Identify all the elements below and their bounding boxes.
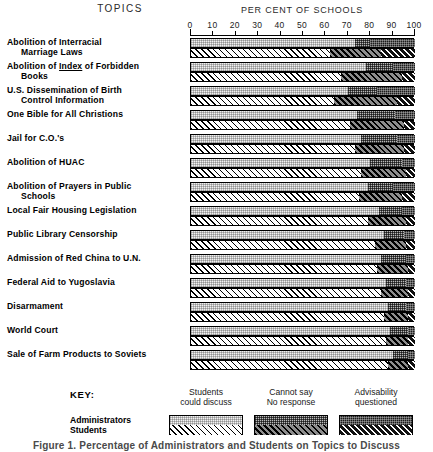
bar-administrators [190,302,414,312]
x-tick-label: 50 [297,20,307,30]
row-bars [190,326,414,350]
topics-column-header: TOPICS [60,3,180,14]
bar-segment-3 [406,279,415,287]
bar-segment-2 [348,87,377,95]
bar-segment-1 [191,87,348,95]
figure-caption: Figure 1. Percentage of Administrators a… [0,440,433,452]
x-tick [324,31,325,36]
chart-row: U.S. Dissemination of BirthControl Infor… [0,86,433,110]
bar-segment-3 [408,313,415,321]
bar-segment-1 [191,361,388,369]
bar-segment-2 [379,207,401,215]
bar-segment-3 [408,265,415,273]
row-bars [190,110,414,134]
bar-segment-2 [370,159,401,167]
key-column-header: Studentscould discuss [163,387,249,407]
bar-administrators [190,110,414,120]
key-title: KEY: [70,389,94,400]
row-label: Jail for C.O.'s [7,134,185,144]
chart-row: Public Library Censorship [0,230,433,254]
bar-segment-1 [191,207,379,215]
bar-segment-2 [388,303,406,311]
row-bars [190,278,414,302]
bar-students [190,72,414,82]
bar-segment-2 [366,63,393,71]
bar-segment-3 [395,111,415,119]
axis-title: PER CENT OF SCHOOLS [190,5,414,15]
bar-students [190,48,414,58]
bar-segment-3 [408,337,415,345]
bar-segment-1 [191,327,390,335]
bar-administrators [190,230,414,240]
key-label-students: Students [70,425,107,435]
bar-segment-1 [191,39,355,47]
key-swatch-students [255,425,327,435]
row-label: One Bible for All Christions [7,110,185,120]
row-bars [190,350,414,374]
chart-row: Abolition of InterracialMarriage Laws [0,38,433,62]
row-bars [190,206,414,230]
bar-segment-1 [191,135,361,143]
row-bars [190,134,414,158]
bar-students [190,216,414,226]
bar-administrators [190,134,414,144]
bar-segment-3 [402,193,415,201]
bar-segment-3 [393,183,415,191]
bar-students [190,192,414,202]
row-bars [190,62,414,86]
bar-segment-1 [191,145,355,153]
bar-segment-1 [191,193,359,201]
bar-segment-1 [191,351,393,359]
x-tick [235,31,236,36]
bar-segment-1 [191,255,381,263]
bar-students [190,288,414,298]
key-column-header: Advisabilityquestioned [333,387,419,407]
bar-segment-2 [341,73,401,81]
bar-segment-3 [393,63,415,71]
bar-administrators [190,254,414,264]
x-tick [280,31,281,36]
row-label: Disarmament [7,302,185,312]
row-bars [190,86,414,110]
bar-segment-3 [406,169,415,177]
bar-segment-2 [334,97,397,105]
row-label: Abolition of Prayers in PublicSchools [7,182,185,201]
row-label: Admission of Red China to U.N. [7,254,185,264]
bar-segment-3 [408,361,415,369]
row-bars [190,254,414,278]
key-swatch-1 [169,415,243,435]
bar-segment-2 [384,231,404,239]
bar-students [190,264,414,274]
bar-segment-2 [393,351,409,359]
bar-segment-3 [404,231,415,239]
x-tick [302,31,303,36]
bar-segment-1 [191,183,368,191]
bar-administrators [190,38,414,48]
bar-students [190,312,414,322]
x-tick [369,31,370,36]
x-tick [347,31,348,36]
chart-row: Federal Aid to Yugoslavia [0,278,433,302]
bar-administrators [190,350,414,360]
chart-row: Abolition of Index of ForbiddenBooks [0,62,433,86]
row-label: Public Library Censorship [7,230,185,240]
bar-administrators [190,278,414,288]
bar-segment-2 [330,49,382,57]
bar-students [190,120,414,130]
key-label-administrators: Administrators [70,415,131,425]
bar-segment-2 [368,217,406,225]
bar-administrators [190,62,414,72]
bar-administrators [190,86,414,96]
x-tick-label: 10 [207,20,217,30]
bar-segment-2 [361,169,406,177]
bar-segment-2 [357,111,395,119]
chart-row: Disarmament [0,302,433,326]
bar-segment-3 [408,327,415,335]
bar-segment-2 [384,313,409,321]
bar-students [190,168,414,178]
bar-segment-3 [406,255,415,263]
bar-segment-3 [406,303,415,311]
row-label: World Court [7,326,185,336]
bar-segment-1 [191,231,384,239]
bar-segment-3 [381,49,415,57]
